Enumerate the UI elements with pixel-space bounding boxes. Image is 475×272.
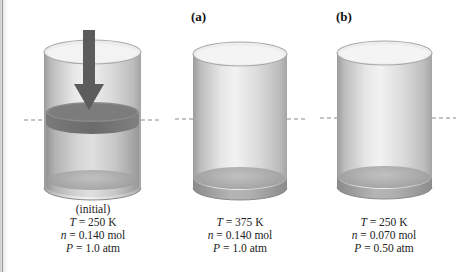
temperature-line: T = 250 K xyxy=(314,216,454,229)
temperature-line: T = 250 K xyxy=(23,216,163,229)
cylinder-a xyxy=(193,42,287,200)
temperature-line: T = 375 K xyxy=(170,216,310,229)
moles-line: n = 0.140 mol xyxy=(170,229,310,242)
caption-title: (initial) xyxy=(23,203,163,216)
piston xyxy=(46,102,139,134)
moles-line: n = 0.140 mol xyxy=(23,229,163,242)
cylinder-initial xyxy=(44,30,141,200)
panel-label-b: (b) xyxy=(336,9,352,25)
caption-b: T = 250 K n = 0.070 mol P = 0.50 atm xyxy=(314,216,454,255)
pressure-line: P = 1.0 atm xyxy=(23,242,163,255)
pressure-line: P = 1.0 atm xyxy=(170,242,310,255)
pressure-line: P = 0.50 atm xyxy=(314,242,454,255)
cylinder-b xyxy=(337,41,432,199)
moles-line: n = 0.070 mol xyxy=(314,229,454,242)
caption-initial: (initial) T = 250 K n = 0.140 mol P = 1.… xyxy=(23,203,163,255)
caption-a: T = 375 K n = 0.140 mol P = 1.0 atm xyxy=(170,216,310,255)
panel-label-a: (a) xyxy=(191,9,206,25)
